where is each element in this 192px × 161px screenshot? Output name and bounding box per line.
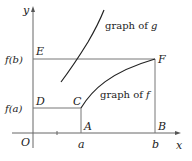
point-label-E: E (35, 45, 44, 58)
curve-label-g: graph of g (105, 20, 157, 31)
x-tick-label-b: b (152, 138, 159, 151)
point-label-C: C (73, 95, 82, 108)
point-label-B: B (157, 120, 166, 133)
x-tick-label-a: a (78, 138, 85, 151)
point-label-F: F (157, 53, 166, 66)
curve-f (81, 59, 155, 108)
y-tick-label-fa: f(a) (4, 103, 23, 114)
y-axis-arrow-icon (31, 6, 35, 12)
point-label-A: A (83, 120, 92, 133)
point-label-D: D (35, 95, 45, 108)
x-axis-label: x (176, 139, 183, 152)
curve-g (61, 10, 104, 82)
origin-label: O (21, 136, 30, 149)
curve-label-f: graph of f (100, 89, 152, 100)
y-tick-label-fb: f(b) (4, 54, 23, 65)
curve-label-g-prefix: graph of (105, 20, 151, 31)
curve-label-g-var: g (151, 20, 157, 31)
curve-label-f-prefix: graph of (100, 89, 146, 100)
curve-label-f-var: f (145, 89, 152, 100)
x-axis-arrow-icon (175, 131, 181, 135)
y-axis-label: y (22, 4, 30, 17)
function-graph-diagram: y x O a b f(b) f(a) E F D C A B graph of… (0, 0, 192, 161)
